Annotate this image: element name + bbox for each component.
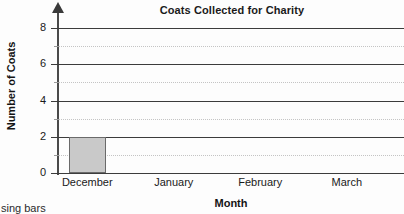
y-tick-minor	[54, 155, 59, 156]
y-tick-minor	[54, 82, 59, 83]
y-axis-title: Number of Coats	[5, 11, 17, 161]
y-tick-minor	[54, 119, 59, 120]
gridline-minor	[58, 82, 404, 83]
gridline-major	[58, 28, 404, 29]
plot-area	[58, 28, 404, 173]
x-axis-title: Month	[58, 197, 404, 209]
y-tick-label: 2	[28, 130, 46, 142]
x-tick-label-december: December	[37, 176, 137, 188]
y-tick-label: 4	[28, 94, 46, 106]
gridline-minor	[58, 46, 404, 47]
y-tick-label: 8	[28, 21, 46, 33]
chart-title: Coats Collected for Charity	[60, 4, 404, 16]
gridline-major	[58, 101, 404, 102]
y-tick-major	[51, 101, 59, 102]
y-axis-line	[57, 10, 59, 175]
y-tick-label: 6	[28, 57, 46, 69]
gridline-major	[58, 173, 404, 174]
gridline-minor	[58, 155, 404, 156]
gridline-major	[58, 64, 404, 65]
x-tick-label-march: March	[297, 176, 397, 188]
x-tick-label-february: February	[210, 176, 310, 188]
y-tick-major	[51, 137, 59, 138]
stray-caption: sing bars	[1, 202, 46, 214]
y-axis-title-container: Number of Coats	[0, 18, 22, 168]
y-tick-major	[51, 64, 59, 65]
gridline-minor	[58, 119, 404, 120]
bar-december	[69, 137, 106, 173]
x-tick-label-january: January	[124, 176, 224, 188]
y-tick-major	[51, 28, 59, 29]
y-tick-major	[51, 173, 59, 174]
gridline-major	[58, 137, 404, 138]
chart-screenshot: Coats Collected for Charity Number of Co…	[0, 0, 404, 214]
y-axis-arrow-icon	[52, 2, 64, 13]
y-tick-minor	[54, 46, 59, 47]
